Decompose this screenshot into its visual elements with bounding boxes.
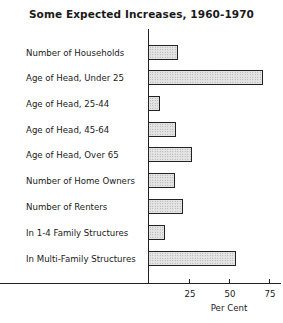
x-axis-line xyxy=(0,283,281,284)
x-tick-25 xyxy=(189,279,190,283)
x-tick-label-75: 75 xyxy=(265,289,276,299)
chart-title: Some Expected Increases, 1960-1970 xyxy=(0,8,283,20)
x-tick-label-25: 25 xyxy=(185,289,196,299)
data-bar xyxy=(149,225,165,240)
data-bar xyxy=(149,70,263,85)
data-bar xyxy=(149,173,175,188)
category-label: Number of Home Owners xyxy=(26,176,135,186)
data-bar xyxy=(149,45,178,60)
x-tick-75 xyxy=(269,279,270,283)
data-bar xyxy=(149,147,192,162)
category-label: Age of Head, Over 65 xyxy=(26,150,119,160)
data-bar xyxy=(149,199,183,214)
category-label: Number of Households xyxy=(26,48,124,58)
data-bar xyxy=(149,96,160,111)
category-label: Age of Head, Under 25 xyxy=(26,73,124,83)
category-label: Age of Head, 25-44 xyxy=(26,99,109,109)
data-bar xyxy=(149,122,176,137)
x-tick-label-50: 50 xyxy=(225,289,236,299)
category-label: Age of Head, 45-64 xyxy=(26,125,109,135)
category-label: Number of Renters xyxy=(26,202,107,212)
x-axis-label: Per Cent xyxy=(211,303,248,313)
category-label: In 1-4 Family Structures xyxy=(26,228,128,238)
x-tick-50 xyxy=(229,279,230,283)
category-label: In Multi-Family Structures xyxy=(26,254,136,264)
data-bar xyxy=(149,251,236,266)
